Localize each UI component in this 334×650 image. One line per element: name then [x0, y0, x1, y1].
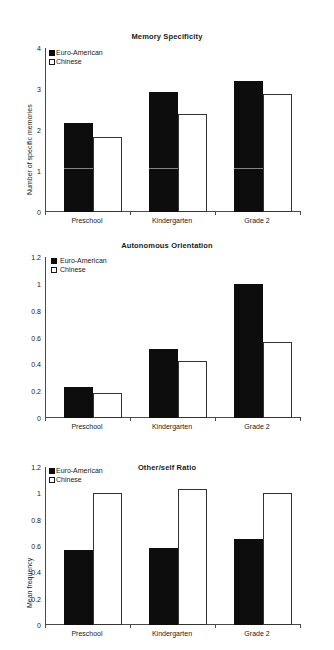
x-label-kindergarten: Kindergarten [152, 630, 192, 637]
chart-panel-other-self-ratio: Other/self Ratio Mean ratio 0 0.2 0.4 0.… [0, 450, 334, 650]
bar-chinese-preschool [93, 493, 122, 625]
filled-square-icon [49, 50, 55, 56]
y-tick-1.2: 1.2 [31, 464, 45, 471]
bar-chinese-kindergarten [178, 114, 207, 212]
legend-item-euro-american: Euro-American [49, 466, 103, 475]
filled-square-icon [51, 258, 57, 264]
legend-label: Chinese [60, 265, 86, 274]
x-label-grade-2: Grade 2 [244, 217, 269, 224]
bar-chinese-grade-2 [263, 342, 292, 419]
bar-euro-american-grade-2 [234, 539, 263, 625]
x-label-grade-2: Grade 2 [244, 630, 269, 637]
bar-euro-american-preschool [64, 387, 93, 419]
bar-chinese-kindergarten [178, 489, 207, 625]
y-tick-1: 1 [37, 168, 45, 175]
open-square-icon [49, 477, 55, 483]
scan-artifact [149, 168, 178, 169]
bar-euro-american-grade-2 [234, 284, 263, 418]
x-tick-1 [130, 418, 131, 421]
x-label-preschool: Preschool [71, 630, 102, 637]
y-tick-0.6: 0.6 [31, 543, 45, 550]
y-tick-0.4: 0.4 [31, 361, 45, 368]
y-tick-0.8: 0.8 [31, 307, 45, 314]
x-tick-2 [215, 212, 216, 215]
x-tick-2 [215, 418, 216, 421]
x-tick-0 [45, 212, 46, 215]
legend-label: Euro-American [56, 48, 103, 57]
bar-euro-american-kindergarten [149, 548, 178, 625]
legend-item-chinese: Chinese [51, 265, 107, 274]
y-tick-0: 0 [37, 209, 45, 216]
y-tick-0.6: 0.6 [31, 334, 45, 341]
scan-artifact [64, 168, 93, 169]
bar-chinese-kindergarten [178, 361, 207, 418]
plot-area: 0 0.2 0.4 0.6 0.8 1 1.2 Preschool Kinder… [45, 257, 301, 418]
bar-chinese-grade-2 [263, 94, 292, 212]
chart-panel-autonomous-orientation: Autonomous Orientation Mean frequency 0 … [0, 230, 334, 450]
bar-euro-american-kindergarten [149, 92, 178, 213]
plot-area: 0 1 2 3 4 Preschool Kindergarten Gr [45, 48, 301, 212]
bar-chinese-grade-2 [263, 493, 292, 625]
y-axis-line [45, 48, 46, 212]
y-axis-label: Number of specific memories [26, 104, 33, 195]
plot-area: 0 0.2 0.4 0.6 0.8 1 1.2 Preschool Kinder… [45, 467, 301, 625]
legend-item-euro-american: Euro-American [51, 256, 107, 265]
y-tick-4: 4 [37, 45, 45, 52]
y-tick-1: 1 [37, 280, 45, 287]
x-tick-0 [45, 418, 46, 421]
figure-root: Memory Specificity Number of specific me… [0, 0, 334, 650]
legend: Euro-American Chinese [49, 48, 103, 66]
x-label-kindergarten: Kindergarten [152, 217, 192, 224]
y-tick-0.4: 0.4 [31, 569, 45, 576]
bar-chinese-preschool [93, 137, 122, 212]
y-tick-0.2: 0.2 [31, 388, 45, 395]
y-tick-0.2: 0.2 [31, 595, 45, 602]
legend: Euro-American Chinese [51, 256, 107, 274]
x-tick-3 [300, 625, 301, 628]
legend: Euro-American Chinese [49, 466, 103, 484]
y-tick-1: 1 [37, 490, 45, 497]
chart-panel-memory-specificity: Memory Specificity Number of specific me… [0, 0, 334, 230]
legend-item-chinese: Chinese [49, 57, 103, 66]
bar-chinese-preschool [93, 393, 122, 419]
x-label-kindergarten: Kindergarten [152, 423, 192, 430]
legend-label: Euro-American [56, 466, 103, 475]
bar-euro-american-grade-2 [234, 81, 263, 212]
x-label-grade-2: Grade 2 [244, 423, 269, 430]
legend-item-chinese: Chinese [49, 475, 103, 484]
x-tick-3 [300, 212, 301, 215]
chart-title: Autonomous Orientation [0, 241, 334, 250]
x-tick-1 [130, 212, 131, 215]
x-tick-3 [300, 418, 301, 421]
open-square-icon [51, 267, 57, 273]
scan-artifact [234, 168, 263, 169]
y-tick-0: 0 [37, 415, 45, 422]
x-tick-1 [130, 625, 131, 628]
legend-label: Chinese [56, 57, 82, 66]
bar-euro-american-kindergarten [149, 349, 178, 418]
y-tick-3: 3 [37, 86, 45, 93]
y-tick-1.2: 1.2 [31, 254, 45, 261]
legend-label: Euro-American [60, 256, 107, 265]
legend-item-euro-american: Euro-American [49, 48, 103, 57]
open-square-icon [49, 59, 55, 65]
x-tick-2 [215, 625, 216, 628]
y-tick-0: 0 [37, 622, 45, 629]
y-axis-line [45, 467, 46, 625]
y-tick-0.8: 0.8 [31, 516, 45, 523]
x-tick-0 [45, 625, 46, 628]
x-label-preschool: Preschool [71, 217, 102, 224]
y-tick-2: 2 [37, 127, 45, 134]
bar-euro-american-preschool [64, 550, 93, 625]
y-axis-line [45, 257, 46, 418]
legend-label: Chinese [56, 475, 82, 484]
chart-title: Memory Specificity [0, 32, 334, 41]
filled-square-icon [49, 468, 55, 474]
x-label-preschool: Preschool [71, 423, 102, 430]
